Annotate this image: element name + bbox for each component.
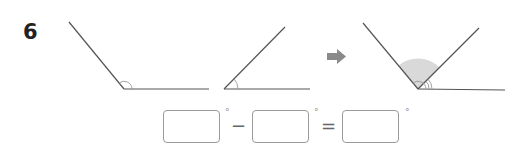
angle-obtuse-icon [69, 22, 209, 89]
answer-box-3[interactable] [342, 110, 399, 143]
degree-symbol-1: ° [225, 108, 230, 117]
equals-sign: = [321, 117, 336, 135]
arrow-right-icon [327, 49, 346, 64]
degree-symbol-2: ° [314, 108, 319, 117]
answer-box-2[interactable] [252, 110, 309, 143]
answer-box-1[interactable] [163, 110, 220, 143]
degree-symbol-3: ° [405, 108, 410, 117]
angle-difference-icon [363, 23, 505, 90]
minus-sign: − [231, 117, 246, 135]
angle-acute-icon [224, 27, 310, 89]
